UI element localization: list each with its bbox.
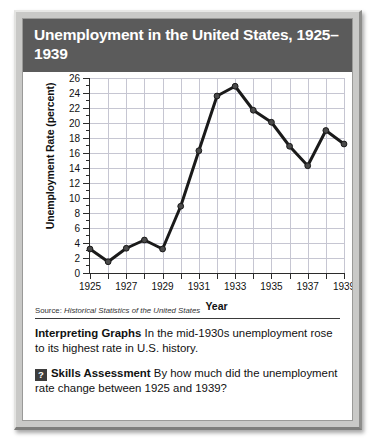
caption-heading: Interpreting Graphs: [35, 327, 141, 339]
y-axis-tick-label: 22: [69, 102, 80, 113]
data-point: [105, 259, 111, 265]
chart-container: Unemployment Rate (percent) 024681012141…: [23, 72, 352, 304]
x-axis-tick: [253, 273, 254, 279]
data-point: [178, 203, 184, 209]
data-point: [287, 143, 293, 149]
data-point: [250, 107, 256, 113]
data-point: [160, 246, 166, 252]
x-axis-tick: [235, 273, 236, 279]
skills-assessment: ?Skills Assessment By how much did the u…: [35, 366, 340, 396]
y-axis-minor-tick: [86, 205, 90, 206]
y-axis-minor-tick: [86, 235, 90, 236]
x-axis-tick: [308, 273, 309, 279]
x-axis-tick: [126, 273, 127, 279]
y-axis-tick: [83, 108, 90, 109]
x-axis-tick: [108, 273, 109, 279]
data-point: [142, 237, 148, 243]
y-axis-minor-tick: [86, 175, 90, 176]
y-axis-tick-label: 12: [69, 177, 80, 188]
y-axis-tick-label: 14: [69, 162, 80, 173]
x-axis-tick: [344, 273, 345, 279]
x-axis-tick: [163, 273, 164, 279]
y-axis-tick-label: 16: [69, 147, 80, 158]
y-axis-tick: [83, 258, 90, 259]
data-point: [341, 141, 347, 147]
data-point: [323, 127, 329, 133]
x-axis-tick: [271, 273, 272, 279]
x-axis-tick: [144, 273, 145, 279]
y-axis-minor-tick: [86, 85, 90, 86]
y-axis-tick-label: 24: [69, 87, 80, 98]
x-axis-tick: [217, 273, 218, 279]
y-axis-tick-label: 10: [69, 192, 80, 203]
y-axis-tick: [83, 213, 90, 214]
x-axis-tick-label: 1925: [79, 281, 101, 292]
y-axis-minor-tick: [86, 220, 90, 221]
y-axis-tick-label: 20: [69, 117, 80, 128]
y-axis-title: Unemployment Rate (percent): [44, 61, 56, 251]
x-axis-tick: [290, 273, 291, 279]
y-axis-tick: [83, 273, 90, 274]
y-axis-minor-tick: [86, 130, 90, 131]
y-axis-tick: [83, 183, 90, 184]
data-point: [214, 93, 220, 99]
y-axis-tick-label: 18: [69, 132, 80, 143]
x-axis-tick-label: 1931: [188, 281, 210, 292]
data-point: [123, 245, 129, 251]
y-axis-tick: [83, 243, 90, 244]
figure-frame: Unemployment in the United States, 1925–…: [14, 10, 362, 430]
y-axis-tick-label: 0: [74, 267, 80, 278]
question-badge-icon: ?: [35, 369, 47, 381]
y-axis-minor-tick: [86, 115, 90, 116]
x-axis-tick: [199, 273, 200, 279]
series-line: [90, 86, 344, 262]
y-axis-tick: [83, 93, 90, 94]
figure-title: Unemployment in the United States, 1925–…: [23, 19, 352, 72]
y-axis-tick-label: 26: [69, 72, 80, 83]
y-axis-tick-label: 6: [74, 222, 80, 233]
y-axis-tick-label: 8: [74, 207, 80, 218]
y-axis-tick: [83, 198, 90, 199]
line-series: [90, 78, 344, 273]
x-axis-tick-label: 1929: [151, 281, 173, 292]
data-point: [196, 148, 202, 154]
data-point: [232, 83, 238, 89]
y-axis-minor-tick: [86, 190, 90, 191]
source-label: Source:: [35, 306, 62, 315]
plot-area: 0246810121416182022242619251927192919311…: [89, 78, 344, 274]
x-axis-tick-label: 1937: [297, 281, 319, 292]
x-axis-title: Year: [89, 300, 344, 312]
y-axis-tick: [83, 168, 90, 169]
y-axis-tick: [83, 123, 90, 124]
x-axis-tick-label: 1933: [224, 281, 246, 292]
x-axis-tick: [90, 273, 91, 279]
y-axis-tick-label: 2: [74, 252, 80, 263]
y-axis-tick-label: 4: [74, 237, 80, 248]
y-axis-minor-tick: [86, 265, 90, 266]
y-axis-minor-tick: [86, 145, 90, 146]
y-axis-tick: [83, 78, 90, 79]
y-axis-minor-tick: [86, 100, 90, 101]
y-axis-tick: [83, 153, 90, 154]
x-axis-tick: [181, 273, 182, 279]
y-axis-tick: [83, 138, 90, 139]
y-axis-tick: [83, 228, 90, 229]
figure-inner: Unemployment in the United States, 1925–…: [22, 18, 353, 421]
x-axis-tick-label: 1939: [333, 281, 353, 292]
x-axis-tick-label: 1927: [115, 281, 137, 292]
data-point: [269, 119, 275, 125]
x-axis-tick: [326, 273, 327, 279]
skills-heading: Skills Assessment: [51, 367, 151, 379]
x-axis-tick-label: 1935: [260, 281, 282, 292]
data-point: [305, 163, 311, 169]
y-axis-minor-tick: [86, 250, 90, 251]
interpreting-graphs-caption: Interpreting Graphs In the mid-1930s une…: [35, 326, 340, 356]
y-axis-minor-tick: [86, 160, 90, 161]
gridline-vertical: [344, 78, 345, 273]
